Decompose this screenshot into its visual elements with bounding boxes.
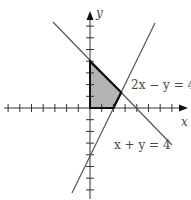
line-label-x-plus-y: x + y = 4	[114, 138, 171, 152]
y-axis-arrow-icon	[87, 11, 94, 20]
line-label-2x-minus-y: 2x − y = 4	[131, 78, 191, 92]
x-axis-arrow-icon	[179, 105, 188, 112]
x-axis-label: x	[181, 115, 188, 129]
y-axis-label: y	[95, 6, 103, 20]
coordinate-graph: y x 2x − y = 4 x + y = 4	[0, 0, 191, 200]
